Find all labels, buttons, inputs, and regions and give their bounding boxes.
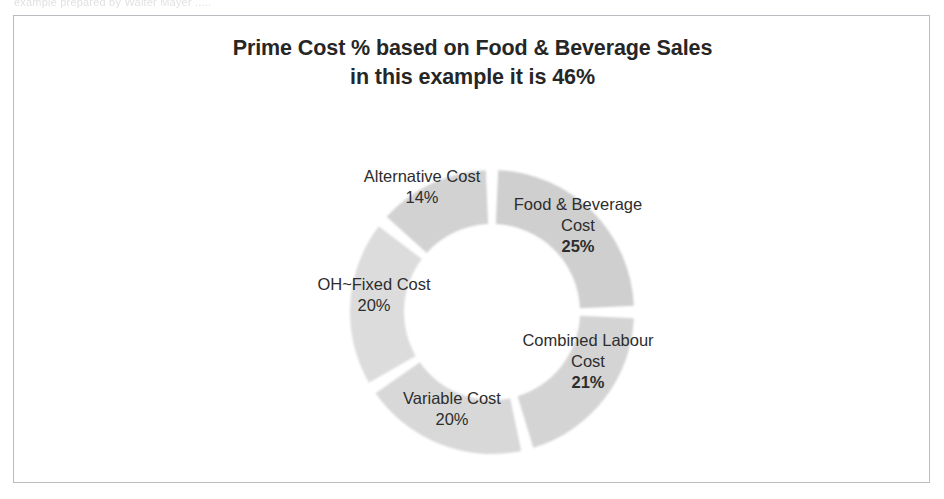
data-label-oh-fixed-cost: OH~Fixed Cost 20% <box>282 274 466 316</box>
scanned-header-text: example prepared by Walter Mayer ..... <box>14 0 434 8</box>
page-title: Prime Cost % based on Food & Beverage Sa… <box>14 34 931 92</box>
chart-title-line-2: in this example it is 46% <box>14 63 931 92</box>
data-label-food-beverage-cost: Food & Beverage Cost 25% <box>488 194 668 257</box>
data-label-oh-fixed-cost-name: OH~Fixed Cost <box>317 275 430 293</box>
data-label-alternative-cost-value: 14% <box>332 187 512 208</box>
data-label-alternative-cost: Alternative Cost 14% <box>332 166 512 208</box>
chart-frame: Prime Cost % based on Food & Beverage Sa… <box>13 15 930 483</box>
data-label-oh-fixed-cost-value: 20% <box>282 295 466 316</box>
data-label-variable-cost-name: Variable Cost <box>403 389 501 407</box>
data-label-variable-cost: Variable Cost 20% <box>369 388 535 430</box>
data-label-variable-cost-value: 20% <box>369 409 535 430</box>
chart-title-line-1: Prime Cost % based on Food & Beverage Sa… <box>233 36 713 60</box>
data-label-combined-labour-cost-name-1: Combined Labour <box>522 331 653 349</box>
data-label-food-beverage-cost-name-1: Food & Beverage <box>514 195 642 213</box>
data-label-alternative-cost-name: Alternative Cost <box>364 167 480 185</box>
data-label-combined-labour-cost: Combined Labour Cost 21% <box>494 330 682 393</box>
data-label-food-beverage-cost-value: 25% <box>488 236 668 257</box>
data-label-combined-labour-cost-name-2: Cost <box>494 351 682 372</box>
data-label-food-beverage-cost-name-2: Cost <box>488 215 668 236</box>
